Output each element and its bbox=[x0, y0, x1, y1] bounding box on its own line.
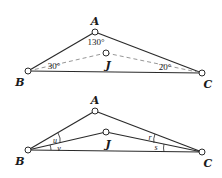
vertex-J bbox=[103, 50, 109, 56]
label-A: A bbox=[90, 15, 100, 28]
bottom-diagram: A B C J u v r s bbox=[14, 94, 212, 170]
diagram-canvas: A B C J 130° 30° 20° A B C J u v r s bbox=[0, 0, 222, 178]
angle-r-label: r bbox=[148, 133, 152, 142]
dashed-JC bbox=[106, 53, 202, 73]
edge-BJ bbox=[28, 132, 106, 150]
vertex-B bbox=[25, 68, 31, 74]
dashed-BJ bbox=[28, 53, 106, 71]
vertex-J bbox=[103, 129, 109, 135]
edge-AC bbox=[95, 32, 202, 73]
label-B: B bbox=[14, 76, 24, 89]
angle-arc-s bbox=[164, 144, 165, 152]
angle-s-label: s bbox=[154, 143, 157, 152]
angle-A-value: 130° bbox=[87, 37, 105, 47]
vertex-B bbox=[25, 147, 31, 153]
edge-BC bbox=[28, 150, 202, 152]
vertex-A bbox=[92, 29, 98, 35]
edge-AB bbox=[28, 32, 95, 71]
vertex-C bbox=[199, 70, 205, 76]
vertex-A bbox=[92, 108, 98, 114]
edge-BC bbox=[28, 71, 202, 73]
label-B: B bbox=[14, 155, 24, 168]
angle-arc-u bbox=[58, 133, 60, 143]
vertex-C bbox=[199, 149, 205, 155]
angle-B-value: 30° bbox=[48, 61, 61, 71]
label-A: A bbox=[90, 94, 100, 107]
angle-arc-v bbox=[50, 145, 51, 150]
label-C: C bbox=[204, 78, 213, 91]
angle-C-value: 20° bbox=[159, 62, 172, 72]
label-J: J bbox=[103, 59, 111, 72]
label-C: C bbox=[204, 157, 213, 170]
edge-AB bbox=[28, 111, 95, 150]
label-J: J bbox=[103, 138, 111, 151]
angle-v-label: v bbox=[57, 144, 61, 153]
top-diagram: A B C J 130° 30° 20° bbox=[14, 15, 212, 91]
edge-AC bbox=[95, 111, 202, 152]
